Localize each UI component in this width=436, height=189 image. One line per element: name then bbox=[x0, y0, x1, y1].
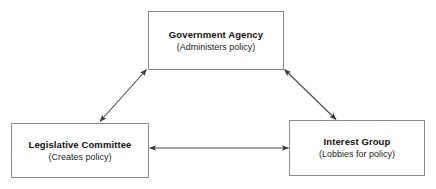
node-legislative-committee[interactable]: Legislative Committee (Creates policy) bbox=[11, 123, 149, 178]
node-title: Legislative Committee bbox=[29, 139, 132, 151]
node-subtitle: (Administers policy) bbox=[177, 41, 256, 53]
agency-interest-connector bbox=[285, 70, 337, 120]
agency-legislative-connector bbox=[100, 70, 147, 122]
node-title: Government Agency bbox=[169, 29, 263, 41]
diagram-canvas: Government Agency (Administers policy) L… bbox=[0, 0, 436, 189]
node-subtitle: (Creates policy) bbox=[48, 151, 111, 163]
node-title: Interest Group bbox=[324, 136, 391, 148]
node-interest-group[interactable]: Interest Group (Lobbies for policy) bbox=[289, 120, 425, 176]
node-subtitle: (Lobbies for policy) bbox=[319, 148, 395, 160]
node-government-agency[interactable]: Government Agency (Administers policy) bbox=[148, 11, 284, 70]
